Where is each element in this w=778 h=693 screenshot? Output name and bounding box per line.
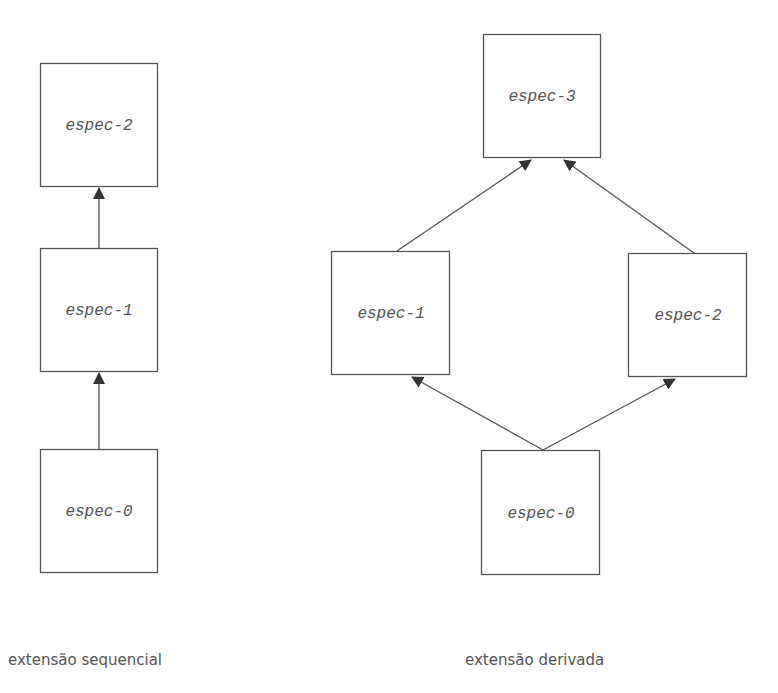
diagram-canvas: espec-2 espec-1 espec-0 espec-3 espec-1 … [0, 0, 778, 693]
der-arrow-2-to-3 [564, 160, 694, 253]
der-box-espec-3: espec-3 [484, 35, 601, 158]
der-box-espec-3-label: espec-3 [508, 88, 576, 106]
der-box-espec-2: espec-2 [629, 254, 747, 377]
seq-box-espec-1-label: espec-1 [65, 302, 132, 320]
der-box-espec-1: espec-1 [332, 252, 450, 375]
der-arrow-1-to-3 [397, 160, 531, 251]
seq-box-espec-0-label: espec-0 [65, 503, 133, 521]
seq-box-espec-0: espec-0 [41, 450, 158, 573]
der-box-espec-0: espec-0 [482, 451, 600, 575]
sequential-diagram: espec-2 espec-1 espec-0 [41, 64, 158, 573]
seq-box-espec-1: espec-1 [41, 249, 158, 372]
caption-derived: extensão derivada [465, 651, 604, 669]
der-box-espec-1-label: espec-1 [357, 305, 424, 323]
der-box-espec-0-label: espec-0 [507, 505, 575, 523]
der-arrow-0-to-1 [412, 377, 543, 450]
seq-box-espec-2: espec-2 [41, 64, 158, 187]
der-box-espec-2-label: espec-2 [654, 307, 722, 325]
caption-sequential: extensão sequencial [8, 651, 162, 669]
seq-box-espec-2-label: espec-2 [65, 117, 133, 135]
der-arrow-0-to-2 [543, 379, 675, 450]
derived-diagram: espec-3 espec-1 espec-2 espec-0 [332, 35, 747, 575]
